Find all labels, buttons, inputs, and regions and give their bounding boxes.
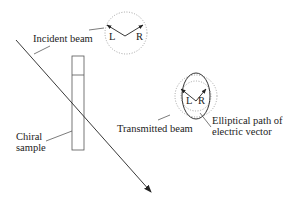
incident-beam-label: Incident beam <box>33 33 93 44</box>
transmitted-r-label: R <box>198 95 205 106</box>
chiral-sample-label-line1: Chiral <box>16 131 42 142</box>
transmitted-polarization: L R <box>175 73 217 119</box>
incident-polarization: L R <box>105 12 147 54</box>
elliptical-path-label-line2: electric vector <box>212 126 272 137</box>
elliptical-path-label-line1: Elliptical path of <box>212 115 283 126</box>
transmitted-l-label: L <box>186 95 192 106</box>
transmitted-beam-label: Transmitted beam <box>117 123 193 134</box>
diagram-canvas: L R L R Incident beam Chiral sample Tran… <box>0 0 296 203</box>
incident-l-label: L <box>109 31 115 42</box>
chiral-sample-label-line2: sample <box>16 142 46 153</box>
chiral-sample <box>72 56 84 150</box>
optical-rotation-diagram: L R L R Incident beam Chiral sample Tran… <box>0 0 296 203</box>
incident-r-label: R <box>136 31 143 42</box>
